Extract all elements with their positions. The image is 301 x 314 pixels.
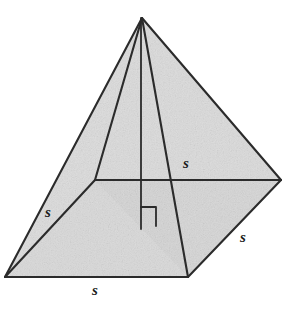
side-label-bottom: s (92, 283, 98, 298)
side-label-right: s (240, 230, 246, 245)
pyramid-svg (0, 0, 301, 314)
side-label-left: s (45, 205, 51, 220)
pyramid-figure: s s s s (0, 0, 301, 314)
side-label-top: s (183, 156, 189, 171)
